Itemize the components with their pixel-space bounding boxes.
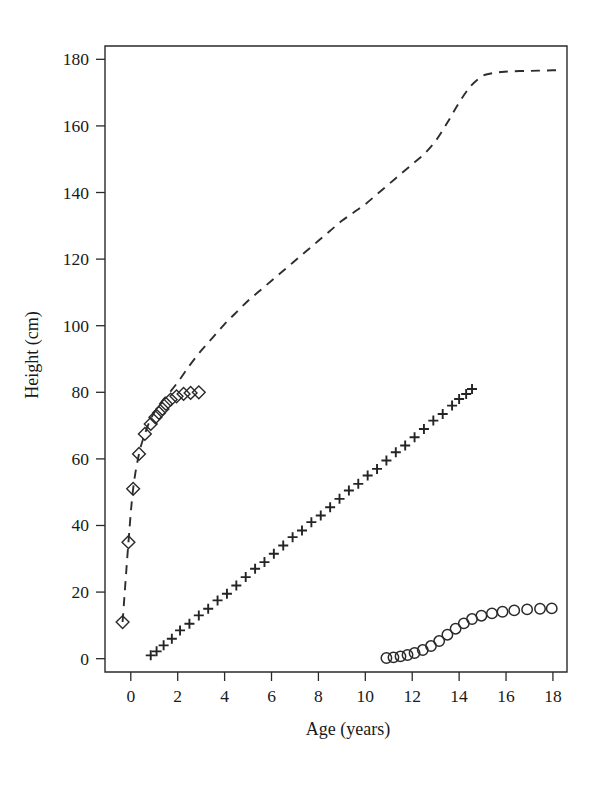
x-tick-label: 0 — [126, 686, 135, 706]
chart-background — [0, 0, 604, 785]
y-axis-title: Height (cm) — [22, 311, 43, 398]
x-tick-label: 12 — [403, 686, 421, 706]
x-tick-label: 14 — [450, 686, 468, 706]
y-tick-label: 60 — [72, 449, 90, 469]
x-tick-label: 10 — [357, 686, 375, 706]
y-tick-label: 0 — [80, 649, 89, 669]
y-tick-label: 140 — [63, 183, 90, 203]
y-tick-label: 120 — [63, 249, 90, 269]
x-tick-label: 4 — [220, 686, 229, 706]
x-tick-label: 6 — [267, 686, 276, 706]
x-tick-label: 16 — [497, 686, 515, 706]
x-tick-label: 2 — [173, 686, 182, 706]
y-tick-label: 80 — [72, 382, 90, 402]
x-axis-title: Age (years) — [306, 719, 390, 740]
y-tick-label: 180 — [63, 49, 90, 69]
y-tick-label: 20 — [72, 582, 90, 602]
chart-canvas: 024681012141618 020406080100120140160180… — [0, 0, 604, 785]
y-tick-label: 160 — [63, 116, 90, 136]
y-tick-label: 40 — [72, 515, 90, 535]
x-tick-label: 18 — [544, 686, 562, 706]
x-tick-label: 8 — [314, 686, 323, 706]
growth-chart-figure: 024681012141618 020406080100120140160180… — [0, 0, 604, 785]
y-tick-label: 100 — [63, 316, 90, 336]
